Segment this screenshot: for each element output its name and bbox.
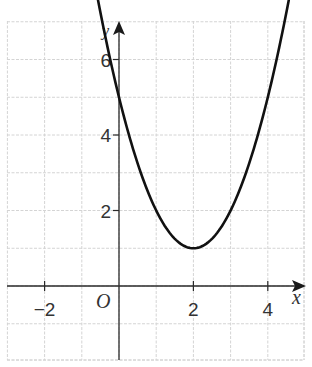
y-tick-label: 4: [100, 125, 111, 146]
tick-labels: −224246: [34, 50, 274, 321]
function-graph: −224246 x y O: [0, 0, 312, 367]
origin-label: O: [96, 290, 110, 312]
x-tick-label: 4: [263, 299, 274, 320]
y-tick-label: 2: [100, 201, 111, 222]
x-tick-label: 2: [188, 299, 199, 320]
x-axis-label: x: [291, 286, 301, 308]
x-tick-label: −2: [34, 299, 56, 320]
